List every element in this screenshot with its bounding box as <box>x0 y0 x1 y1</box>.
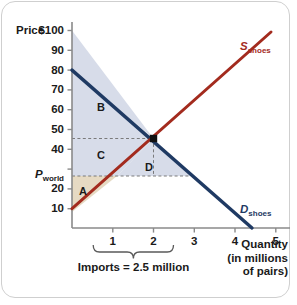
world-price-label: Pworld <box>10 169 64 183</box>
y-tick-label-50: 50 <box>18 124 64 136</box>
x-axis-title-line-2: (in millions <box>196 252 288 266</box>
region-label-c: C <box>97 150 105 161</box>
region-label-a: A <box>79 186 87 197</box>
x-axis-title-line-1: Quantity <box>196 238 288 252</box>
y-tick-label-10: 10 <box>18 203 64 215</box>
y-tick-label-40: 40 <box>18 144 64 156</box>
demand-curve-label-sub: shoes <box>248 209 271 218</box>
y-tick-label-100: $100 <box>18 25 64 37</box>
region-label-d: D <box>145 162 153 173</box>
imports-annotation-label: Imports = 2.5 million <box>63 262 204 274</box>
supply-curve-label-sub: shoes <box>248 46 271 55</box>
x-tick-label-2: 2 <box>141 236 167 248</box>
y-tick-label-60: 60 <box>18 104 64 116</box>
supply-demand-chart-figure: Price $100 90 80 70 60 50 40 20 10 Pworl… <box>0 0 297 305</box>
y-tick-label-20: 20 <box>18 183 64 195</box>
y-tick-label-70: 70 <box>18 84 64 96</box>
world-price-label-sub: world <box>43 174 64 183</box>
region-label-b: B <box>97 102 105 113</box>
x-axis-title-line-3: of pairs) <box>196 265 288 279</box>
supply-curve-label: Sshoes <box>240 41 271 55</box>
equilibrium-point-marker <box>150 135 157 142</box>
supply-curve-label-main: S <box>240 40 248 52</box>
world-price-label-main: P <box>35 168 43 180</box>
demand-curve-label: Dshoes <box>240 204 271 218</box>
x-axis-title: Quantity (in millions of pairs) <box>196 238 288 279</box>
y-tick-label-90: 90 <box>18 45 64 57</box>
y-tick-label-80: 80 <box>18 65 64 77</box>
x-tick-label-1: 1 <box>100 236 126 248</box>
